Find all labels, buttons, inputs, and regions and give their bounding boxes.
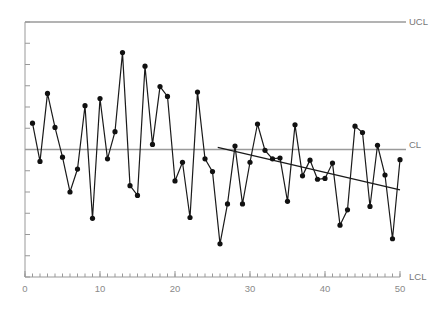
data-point	[75, 166, 80, 171]
ucl-label: UCL	[409, 16, 428, 27]
cl-label: CL	[409, 139, 421, 150]
data-point	[367, 204, 372, 209]
data-point	[337, 223, 342, 228]
data-point	[375, 143, 380, 148]
data-point	[97, 96, 102, 101]
data-point	[240, 201, 245, 206]
data-point	[195, 90, 200, 95]
x-tick-label-0: 0	[22, 283, 27, 294]
data-point	[307, 158, 312, 163]
data-point	[352, 124, 357, 129]
data-point	[247, 160, 252, 165]
control-chart-canvas: 0 10 20 30 40 50 UCL CL LCL	[0, 0, 446, 312]
data-point	[90, 216, 95, 221]
data-point	[135, 193, 140, 198]
data-point	[225, 201, 230, 206]
data-point	[127, 183, 132, 188]
x-tick-label-40: 40	[320, 283, 331, 294]
data-point	[262, 148, 267, 153]
data-point	[150, 142, 155, 147]
x-tick-label-50: 50	[395, 283, 406, 294]
data-point	[277, 155, 282, 160]
data-point	[322, 176, 327, 181]
data-point	[120, 50, 125, 55]
data-point	[217, 241, 222, 246]
data-point	[390, 236, 395, 241]
data-point	[60, 155, 65, 160]
data-point	[37, 159, 42, 164]
x-tick-label-10: 10	[95, 283, 106, 294]
data-point	[330, 161, 335, 166]
data-point	[360, 130, 365, 135]
x-tick-label-20: 20	[170, 283, 181, 294]
data-point	[45, 91, 50, 96]
data-point	[30, 121, 35, 126]
data-point	[82, 103, 87, 108]
data-point	[315, 177, 320, 182]
data-point	[255, 121, 260, 126]
data-point	[112, 129, 117, 134]
data-point	[300, 173, 305, 178]
data-point	[397, 157, 402, 162]
data-point	[210, 169, 215, 174]
data-point	[105, 156, 110, 161]
data-point	[187, 215, 192, 220]
data-point	[285, 199, 290, 204]
lcl-label: LCL	[409, 271, 426, 282]
data-point	[270, 156, 275, 161]
data-point	[345, 207, 350, 212]
data-point	[232, 144, 237, 149]
x-tick-label-30: 30	[245, 283, 256, 294]
data-point	[202, 156, 207, 161]
chart-background	[0, 0, 446, 312]
data-point	[52, 125, 57, 130]
data-point	[172, 178, 177, 183]
data-point	[165, 94, 170, 99]
data-point	[382, 172, 387, 177]
data-point	[142, 64, 147, 69]
data-point	[292, 122, 297, 127]
data-point	[67, 189, 72, 194]
data-point	[180, 160, 185, 165]
data-point	[157, 84, 162, 89]
control-chart: 0 10 20 30 40 50 UCL CL LCL	[0, 0, 446, 312]
